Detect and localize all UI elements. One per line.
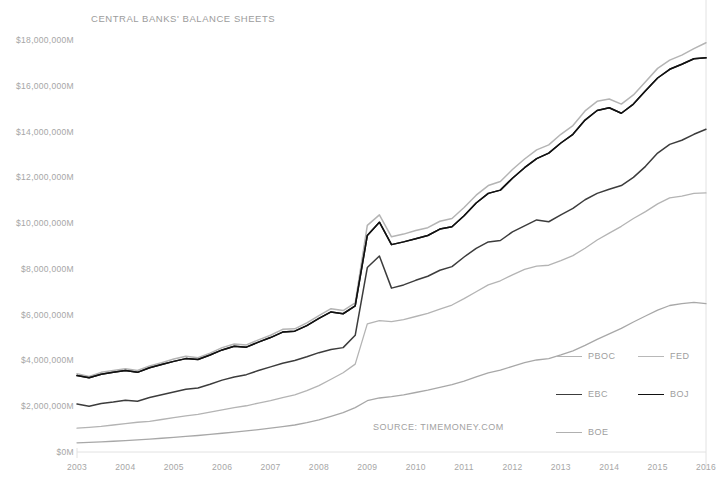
legend-label: FED (670, 351, 690, 361)
legend-swatch-ebc (556, 394, 582, 395)
legend-item-boj[interactable]: BOJ (638, 388, 689, 400)
x-tick-label: 2003 (67, 462, 87, 472)
x-tick-label: 2010 (406, 462, 426, 472)
legend-label: BOE (588, 427, 609, 437)
legend-label: EBC (588, 389, 608, 399)
x-tick-label: 2013 (551, 462, 571, 472)
x-tick-label: 2011 (454, 462, 473, 472)
legend-item-pboc[interactable]: PBOC (556, 350, 616, 362)
legend-item-fed[interactable]: FED (638, 350, 690, 362)
legend-swatch-boj (638, 394, 664, 395)
source-note: SOURCE: TIMEMONEY.COM (373, 422, 504, 432)
chart-legend: PBOCFEDEBCBOJBOE (556, 344, 714, 444)
legend-label: PBOC (588, 351, 616, 361)
x-tick-label: 2006 (212, 462, 232, 472)
x-tick-label: 2008 (309, 462, 329, 472)
x-tick-label: 2015 (648, 462, 668, 472)
legend-swatch-boe (556, 432, 582, 433)
x-tick-label: 2016 (696, 462, 716, 472)
chart-container: CENTRAL BANKS' BALANCE SHEETS $0M$2,000,… (0, 0, 718, 485)
x-tick-label: 2007 (260, 462, 280, 472)
legend-label: BOJ (670, 389, 689, 399)
legend-swatch-fed (638, 356, 664, 357)
legend-swatch-pboc (556, 356, 582, 357)
x-tick-label: 2014 (599, 462, 619, 472)
legend-item-boe[interactable]: BOE (556, 426, 609, 438)
x-tick-label: 2012 (502, 462, 522, 472)
x-tick-label: 2009 (357, 462, 377, 472)
legend-item-ebc[interactable]: EBC (556, 388, 608, 400)
x-tick-label: 2005 (164, 462, 184, 472)
x-tick-label: 2004 (115, 462, 135, 472)
